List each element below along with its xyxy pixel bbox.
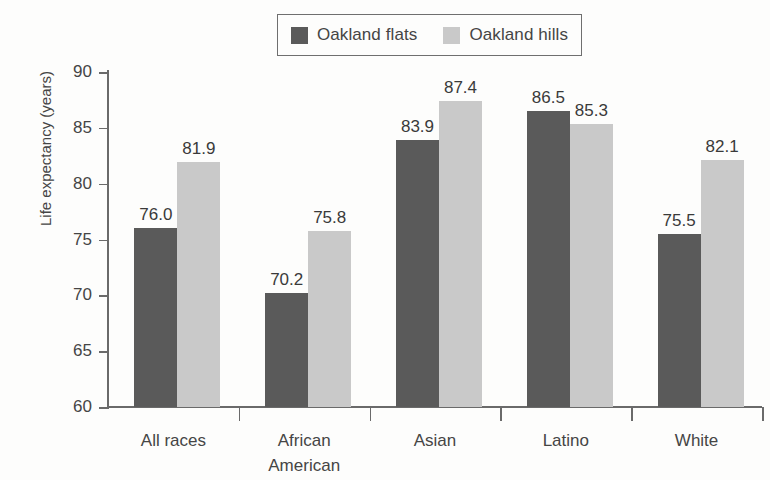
- bar-value-label: 70.2: [259, 270, 314, 290]
- x-tick-mark: [370, 407, 372, 421]
- bar-hills: [570, 124, 613, 407]
- legend-label-flats: Oakland flats: [317, 25, 418, 45]
- bar-flats: [134, 228, 177, 407]
- y-tick-label: 75: [52, 230, 92, 250]
- x-category-label: All races: [108, 429, 239, 454]
- x-category-label: Latino: [500, 429, 631, 454]
- y-tick-label: 65: [52, 341, 92, 361]
- bar-value-label: 87.4: [433, 78, 488, 98]
- y-tick-mark: [99, 295, 108, 297]
- y-tick-mark: [99, 72, 108, 74]
- x-tick-mark: [762, 407, 764, 421]
- x-category-label-line: Latino: [500, 429, 631, 454]
- y-axis-title: Life expectancy (years): [37, 19, 54, 279]
- x-category-label-line: All races: [108, 429, 239, 454]
- bar-value-label: 83.9: [390, 117, 445, 137]
- bar-flats: [658, 234, 701, 407]
- chart-legend: Oakland flats Oakland hills: [277, 14, 582, 56]
- y-tick-label: 70: [52, 285, 92, 305]
- x-category-label-line: American: [239, 454, 370, 479]
- y-tick-label: 80: [52, 174, 92, 194]
- bar-hills: [701, 160, 744, 407]
- x-tick-mark: [239, 407, 241, 421]
- bar-value-label: 75.8: [302, 208, 357, 228]
- bar-hills: [177, 162, 220, 407]
- x-category-label: White: [631, 429, 762, 454]
- bar-flats: [265, 293, 308, 407]
- x-tick-mark: [500, 407, 502, 421]
- legend-entry-oakland-hills: Oakland hills: [443, 25, 568, 45]
- bar-value-label: 75.5: [652, 211, 707, 231]
- y-tick-mark: [99, 240, 108, 242]
- bar-hills: [308, 231, 351, 407]
- legend-label-hills: Oakland hills: [469, 25, 568, 45]
- x-category-label-line: White: [631, 429, 762, 454]
- chart-figure: Oakland flats Oakland hills Life expecta…: [0, 0, 770, 480]
- bar-flats: [396, 140, 439, 407]
- bar-value-label: 85.3: [564, 101, 619, 121]
- plot-area: 60657075808590 76.081.970.275.883.987.48…: [108, 72, 762, 407]
- legend-swatch-icon-hills: [443, 27, 460, 44]
- y-tick-label: 60: [52, 397, 92, 417]
- y-tick-mark: [99, 407, 108, 409]
- bar-value-label: 82.1: [695, 137, 750, 157]
- x-tick-mark: [631, 407, 633, 421]
- bar-value-label: 81.9: [171, 139, 226, 159]
- y-tick-label: 85: [52, 118, 92, 138]
- bar-hills: [439, 101, 482, 407]
- bar-flats: [527, 111, 570, 407]
- y-tick-mark: [99, 184, 108, 186]
- x-category-label-line: African: [239, 429, 370, 454]
- y-tick-mark: [99, 351, 108, 353]
- legend-swatch-icon-flats: [291, 27, 308, 44]
- x-category-label: Asian: [370, 429, 501, 454]
- legend-entry-oakland-flats: Oakland flats: [291, 25, 418, 45]
- y-tick-label: 90: [52, 62, 92, 82]
- y-tick-mark: [99, 128, 108, 130]
- bar-value-label: 76.0: [128, 205, 183, 225]
- x-category-label: AfricanAmerican: [239, 429, 370, 478]
- x-category-label-line: Asian: [370, 429, 501, 454]
